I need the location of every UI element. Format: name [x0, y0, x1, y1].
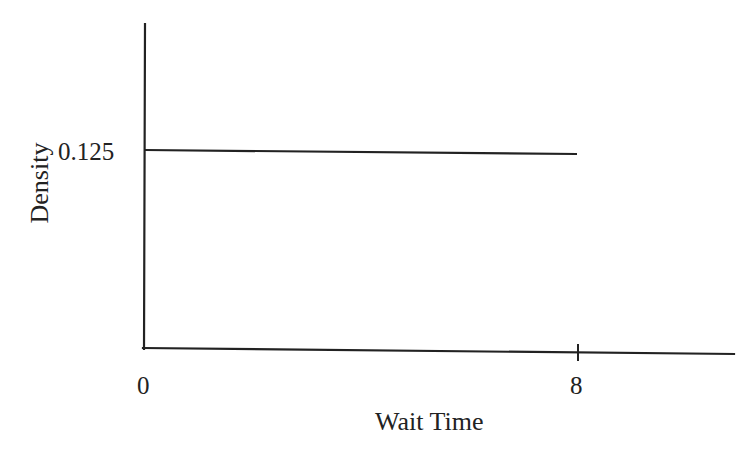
x-tick-label-0: 0 [137, 373, 150, 398]
density-line [145, 150, 577, 154]
x-tick-label-8: 8 [570, 373, 583, 398]
y-tick-label-0125: 0.125 [58, 139, 114, 164]
y-axis-label: Density [27, 143, 53, 224]
x-axis [143, 348, 734, 354]
y-axis [144, 24, 145, 349]
x-axis-label: Wait Time [375, 409, 483, 435]
chart-canvas [0, 0, 755, 457]
